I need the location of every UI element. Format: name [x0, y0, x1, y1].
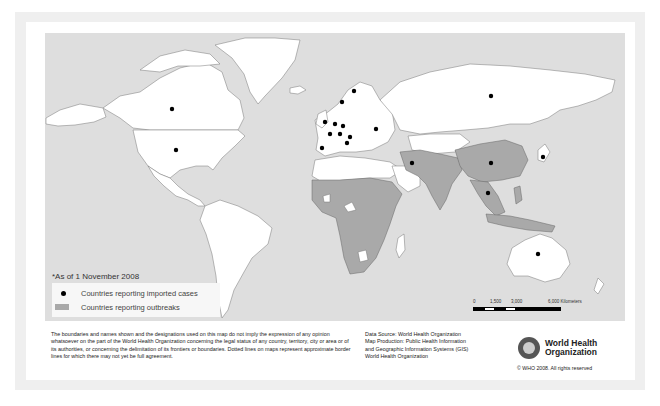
scale-label-0: 0	[473, 299, 476, 304]
land-iceland	[290, 86, 306, 94]
legend-item-outbreaks: Countries reporting outbreaks	[52, 301, 180, 313]
legend-label-imported: Countries reporting imported cases	[81, 289, 198, 298]
land-russia	[380, 64, 615, 134]
scale-seg-2	[506, 308, 515, 310]
imported-case-marker	[341, 124, 345, 128]
outbreak-indonesia	[486, 214, 555, 232]
imported-case-marker	[348, 135, 352, 139]
scale-labels: 0 1,500 3,000 6,000 Kilometers	[473, 299, 623, 307]
outbreak-se-asia	[470, 180, 505, 216]
imported-case-marker	[333, 122, 337, 126]
map-disclaimer: The boundaries and names shown and the d…	[51, 331, 351, 361]
scale-label-6000: 6,000 Kilometers	[548, 299, 582, 304]
imported-case-marker	[170, 107, 174, 111]
gray-swatch-icon	[55, 304, 69, 310]
source-line-3: and Geographic Information Systems (GIS)	[365, 346, 485, 353]
source-line-2: Map Production: Public Health Informatio…	[365, 338, 485, 345]
imported-case-marker	[328, 132, 332, 136]
land-madagascar	[396, 234, 405, 258]
scale-seg-1	[485, 308, 494, 310]
imported-case-marker	[486, 191, 490, 195]
land-alaska	[46, 104, 106, 126]
imported-case-marker	[541, 155, 545, 159]
legend: Countries reporting imported cases Count…	[52, 283, 220, 317]
source-line-4: World Health Organization	[365, 353, 485, 360]
who-name: World Health Organization	[545, 339, 597, 357]
land-north-africa	[312, 156, 402, 182]
land-new-zealand	[594, 278, 604, 294]
who-emblem-icon	[518, 337, 540, 359]
land-usa	[133, 130, 245, 178]
imported-case-marker	[489, 94, 493, 98]
scale-bar: 0 1,500 3,000 6,000 Kilometers	[473, 299, 623, 319]
source-line-1: Data Source: World Health Organization	[365, 331, 485, 338]
imported-case-marker	[323, 120, 327, 124]
outbreak-philippines	[514, 186, 522, 204]
imported-case-marker	[174, 148, 178, 152]
outbreak-africa	[312, 178, 402, 274]
imported-case-marker	[338, 132, 342, 136]
land-japan	[538, 144, 550, 162]
land-botswana	[358, 250, 368, 262]
land-australia	[507, 234, 570, 282]
imported-case-marker	[340, 100, 344, 104]
scale-bar-graphic	[473, 307, 561, 311]
imported-case-marker	[410, 161, 414, 165]
imported-case-marker	[352, 89, 356, 93]
scale-label-1500: 1,500	[490, 299, 501, 304]
legend-item-imported: Countries reporting imported cases	[52, 287, 198, 299]
legend-date-note: *As of 1 November 2008	[52, 272, 139, 281]
black-dot-icon	[61, 291, 66, 296]
land-canada	[103, 62, 244, 130]
who-logo: World Health Organization	[518, 334, 628, 362]
legend-label-outbreaks: Countries reporting outbreaks	[81, 303, 180, 312]
data-source: Data Source: World Health Organization M…	[365, 331, 485, 361]
imported-case-marker	[320, 146, 324, 150]
imported-case-marker	[536, 252, 540, 256]
scale-label-3000: 3,000	[511, 299, 522, 304]
imported-case-marker	[345, 141, 349, 145]
imported-case-marker	[374, 127, 378, 131]
imported-case-marker	[489, 161, 493, 165]
copyright: © WHO 2008. All rights reserved	[517, 365, 592, 371]
who-name-line-2: Organization	[545, 348, 597, 357]
